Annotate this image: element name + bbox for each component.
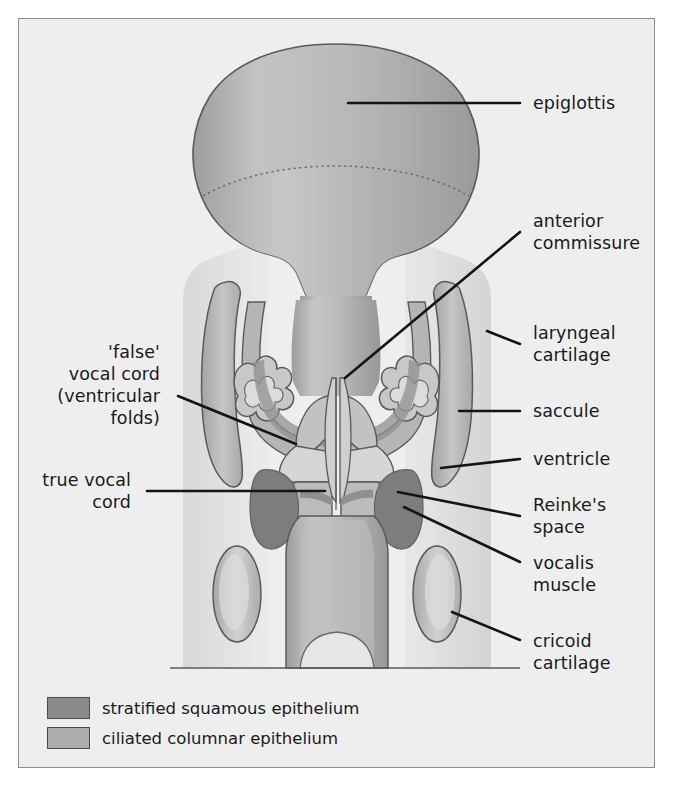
label-reinkes-space-line2: space (533, 516, 585, 538)
larynx-coronal-section-figure: epiglottis anterior commissure laryngeal… (0, 0, 673, 787)
legend-label-stratified-squamous: stratified squamous epithelium (102, 699, 359, 718)
label-cricoid-cartilage-line1: cricoid (533, 630, 592, 652)
label-false-vocal-cord-line4: folds) (0, 407, 160, 429)
label-true-vocal-cord-line1: true vocal (0, 469, 131, 491)
label-true-vocal-cord-line2: cord (0, 491, 131, 513)
label-false-vocal-cord-line1: 'false' (0, 341, 160, 363)
label-cricoid-cartilage-line2: cartilage (533, 652, 611, 674)
leader-laryngeal-cartilage (487, 331, 520, 344)
legend-label-ciliated-columnar: ciliated columnar epithelium (102, 729, 338, 748)
label-saccule: saccule (533, 400, 600, 422)
label-vocalis-muscle-line1: vocalis (533, 552, 594, 574)
cricoid-cartilage-left (213, 546, 261, 642)
legend-swatch-ciliated-columnar (47, 727, 90, 749)
label-anterior-commissure-line1: anterior (533, 210, 603, 232)
label-false-vocal-cord-line2: vocal cord (0, 363, 160, 385)
subglottis-trachea (286, 516, 388, 668)
label-ventricle: ventricle (533, 448, 610, 470)
label-vocalis-muscle-line2: muscle (533, 574, 596, 596)
label-laryngeal-cartilage-line1: laryngeal (533, 322, 616, 344)
cricoid-cartilage-right (413, 546, 461, 642)
legend-swatch-stratified-squamous (47, 697, 90, 719)
label-reinkes-space-line1: Reinke's (533, 494, 606, 516)
label-anterior-commissure-line2: commissure (533, 232, 640, 254)
label-laryngeal-cartilage-line2: cartilage (533, 344, 611, 366)
label-false-vocal-cord-line3: (ventricular (0, 385, 160, 407)
label-epiglottis: epiglottis (533, 92, 615, 114)
